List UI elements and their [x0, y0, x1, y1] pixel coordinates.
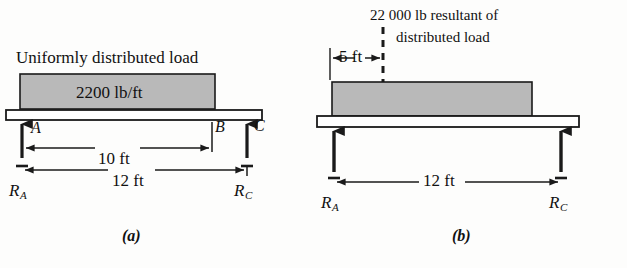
reaction-symbol-rc: R: [549, 193, 559, 212]
reaction-label-rc: RC: [549, 194, 567, 213]
dimension-label-5ft: 5 ft: [339, 48, 362, 65]
reaction-arrow-c: [555, 131, 567, 178]
reaction-label-ra: RA: [9, 182, 27, 201]
reaction-symbol-ra: R: [321, 193, 331, 212]
reaction-subscript-rc: C: [560, 201, 567, 213]
point-label-c: C: [254, 118, 265, 134]
reaction-subscript-rc: C: [245, 189, 252, 201]
reaction-label-rc: RC: [234, 182, 252, 201]
reaction-label-ra: RA: [321, 194, 339, 213]
dimension-label-10ft: 10 ft: [98, 150, 130, 167]
extension-lines: [22, 124, 247, 176]
panel-a-diagram: [0, 0, 313, 268]
resultant-note-line2: distributed load: [396, 30, 490, 45]
reaction-subscript-ra: A: [20, 189, 27, 201]
dimension-label-12ft: 12 ft: [112, 172, 144, 189]
panel-b-caption: (b): [452, 228, 471, 244]
reaction-arrow-a: [328, 131, 340, 178]
beam: [317, 116, 579, 127]
dimension-label-12ft: 12 ft: [423, 172, 455, 189]
point-label-b: B: [215, 119, 225, 135]
panel-a-caption: (a): [122, 228, 141, 244]
distributed-load-title: Uniformly distributed load: [16, 49, 198, 66]
load-intensity-label: 2200 lb/ft: [76, 84, 143, 101]
panel-b: 22 000 lb resultant of distributed load …: [313, 0, 627, 268]
figure-container: Uniformly distributed load 2200 lb/ft A …: [0, 0, 627, 268]
reaction-subscript-ra: A: [332, 201, 339, 213]
distributed-load-block: [332, 82, 532, 116]
reaction-arrow-c: [241, 124, 253, 166]
panel-a: Uniformly distributed load 2200 lb/ft A …: [0, 0, 313, 268]
reaction-symbol-ra: R: [9, 181, 19, 200]
point-label-a: A: [31, 120, 41, 136]
resultant-note-line1: 22 000 lb resultant of: [370, 8, 498, 23]
reaction-symbol-rc: R: [234, 181, 244, 200]
